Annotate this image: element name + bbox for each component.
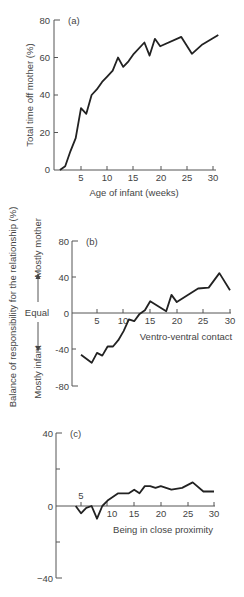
a-xtick: 30 xyxy=(208,172,219,183)
c-ytick: 40 xyxy=(42,428,53,439)
c-xtick: 25 xyxy=(183,508,194,519)
c-xtick: 30 xyxy=(209,508,220,519)
b-xtick: 20 xyxy=(172,315,183,326)
b-ytick: 0 xyxy=(64,308,69,319)
a-ytick: 20 xyxy=(39,127,50,138)
a-ytick: 80 xyxy=(39,15,50,26)
b-ytick: 80 xyxy=(58,236,69,247)
a-x-axis-label: Age of infant (weeks) xyxy=(89,187,178,198)
a-ytick: 0 xyxy=(45,164,50,175)
shared-y-axis-label: Balance of responsibility for the relati… xyxy=(7,207,18,408)
b-xtick: 15 xyxy=(145,315,156,326)
a-xtick: 15 xyxy=(128,172,139,183)
panel-a: 0 20 40 60 80 5 10 15 20 25 30 (a) Age o… xyxy=(24,15,218,198)
b-ytick: 40 xyxy=(58,272,69,283)
panel-a-label: (a) xyxy=(68,15,80,26)
mostly-infant-label: Mostly infant xyxy=(32,345,43,399)
b-ytick: -40 xyxy=(55,344,69,355)
b-xtick: 25 xyxy=(198,315,209,326)
a-y-axis-label: Total time off mother (%) xyxy=(24,43,35,146)
b-xtick: 5 xyxy=(94,315,99,326)
panel-c: 40 0 −40 5 10 15 20 25 30 (c) Being in c… xyxy=(37,428,219,584)
a-xtick: 5 xyxy=(78,172,83,183)
a-xtick: 10 xyxy=(102,172,113,183)
c-xtick: 15 xyxy=(129,508,140,519)
c-xtick: 10 xyxy=(107,508,118,519)
b-ytick: -80 xyxy=(55,381,69,392)
c-ytick: 0 xyxy=(48,501,53,512)
a-xtick: 20 xyxy=(156,172,167,183)
a-xtick: 25 xyxy=(182,172,193,183)
c-ytick: −40 xyxy=(37,573,53,584)
mostly-mother-label: Mostly mother xyxy=(32,218,43,278)
c-xtick: 5 xyxy=(78,490,83,501)
a-data-line xyxy=(60,35,218,170)
b-x-axis-label: Ventro-ventral contact xyxy=(140,331,233,342)
figure: 0 20 40 60 80 5 10 15 20 25 30 (a) Age o… xyxy=(0,0,244,597)
a-ytick: 60 xyxy=(39,52,50,63)
b-xtick: 30 xyxy=(225,315,236,326)
panel-b: 80 40 0 -40 -80 5 10 15 20 25 30 (b) Ven… xyxy=(55,236,235,392)
c-xtick: 20 xyxy=(156,508,167,519)
panel-b-label: (b) xyxy=(86,236,98,247)
a-ytick: 40 xyxy=(39,89,50,100)
panel-c-label: (c) xyxy=(70,428,81,439)
c-x-axis-label: Being in close proximity xyxy=(113,524,213,535)
equal-label: Equal xyxy=(25,307,49,318)
shared-y-labels: Balance of responsibility for the relati… xyxy=(7,207,49,408)
